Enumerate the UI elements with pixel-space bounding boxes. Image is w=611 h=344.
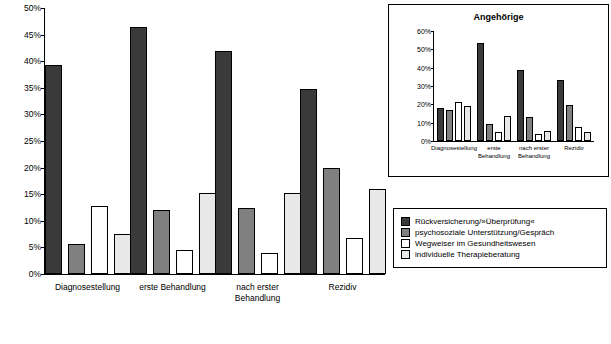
bar xyxy=(91,206,108,274)
legend-swatch xyxy=(401,228,410,237)
main-bar-chart: 0%5%10%15%20%25%30%35%40%45%50%Diagnoses… xyxy=(0,0,400,300)
y-axis-tick-mark xyxy=(41,274,45,275)
chart-legend: Rückversicherung/»Überprüfung«psychosozi… xyxy=(393,208,607,268)
legend-swatch xyxy=(401,239,410,248)
bar-group: nach ersterBehandlung xyxy=(215,8,300,274)
bar xyxy=(584,132,591,141)
bar xyxy=(261,253,278,274)
bar xyxy=(114,234,131,274)
x-axis-category-label: nach ersterBehandlung xyxy=(518,145,550,161)
legend-label: psychosoziale Unterstützung/Gespräch xyxy=(415,228,554,237)
bar xyxy=(477,43,484,141)
bar xyxy=(369,189,386,274)
bar-group: erste Behandlung xyxy=(130,8,215,274)
bar xyxy=(215,51,232,274)
bar xyxy=(566,105,573,141)
bar xyxy=(437,108,444,141)
bar xyxy=(446,110,453,141)
x-axis-category-label: Diagnosestellung xyxy=(431,145,477,153)
x-axis-category-label: Diagnosestellung xyxy=(55,282,120,293)
bar xyxy=(575,127,582,141)
bar xyxy=(130,27,147,274)
bar xyxy=(238,208,255,274)
bar-group: Diagnosestellung xyxy=(45,8,130,274)
bar xyxy=(464,106,471,141)
bar xyxy=(495,132,502,141)
x-axis-category-label: erste Behandlung xyxy=(139,282,206,293)
bar xyxy=(45,65,62,274)
x-axis-category-label: Rezidiv xyxy=(329,282,357,293)
legend-label: Wegweiser im Gesundheitswesen xyxy=(415,239,535,248)
inset-plot-area: 0%10%20%30%40%50%60%Diagnosestellungerst… xyxy=(433,31,594,142)
bar xyxy=(455,102,462,141)
bar-group: Diagnosestellung xyxy=(434,31,474,141)
bar-group: Rezidiv xyxy=(300,8,385,274)
bar xyxy=(544,131,551,141)
legend-swatch xyxy=(401,250,410,259)
bar xyxy=(68,244,85,274)
bar xyxy=(176,250,193,274)
legend-item: Rückversicherung/»Überprüfung« xyxy=(401,217,599,226)
legend-label: Rückversicherung/»Überprüfung« xyxy=(415,217,535,226)
bar-group: Rezidiv xyxy=(554,31,594,141)
main-plot-area: 0%5%10%15%20%25%30%35%40%45%50%Diagnoses… xyxy=(44,8,385,275)
legend-swatch xyxy=(401,217,410,226)
bar xyxy=(504,116,511,141)
inset-chart-panel: Angehörige 0%10%20%30%40%50%60%Diagnoses… xyxy=(388,4,609,177)
x-axis-category-label: Rezidiv xyxy=(564,145,584,153)
y-axis-tick-mark xyxy=(431,141,434,142)
bar xyxy=(323,168,340,274)
bar xyxy=(486,124,493,141)
bar xyxy=(199,193,216,274)
bar xyxy=(526,117,533,141)
bar-group: erste Behandlung xyxy=(474,31,514,141)
bar xyxy=(535,134,542,141)
bar xyxy=(284,193,301,274)
legend-label: individuelle Therapieberatung xyxy=(415,250,520,259)
bar xyxy=(557,80,564,141)
bar xyxy=(153,210,170,274)
legend-item: psychosoziale Unterstützung/Gespräch xyxy=(401,228,599,237)
legend-item: Wegweiser im Gesundheitswesen xyxy=(401,239,599,248)
bar xyxy=(300,89,317,274)
legend-item: individuelle Therapieberatung xyxy=(401,250,599,259)
x-axis-category-label: nach ersterBehandlung xyxy=(235,282,280,303)
inset-chart-title: Angehörige xyxy=(389,12,608,22)
bar-group: nach ersterBehandlung xyxy=(514,31,554,141)
bar xyxy=(346,238,363,274)
x-axis-category-label: erste Behandlung xyxy=(478,145,510,161)
bar xyxy=(517,70,524,141)
